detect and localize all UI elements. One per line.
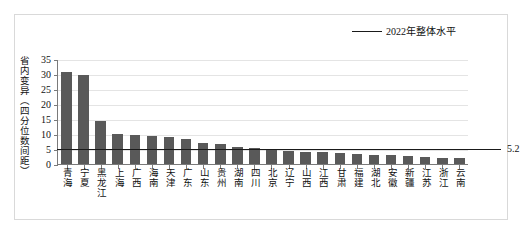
x-label-slot: 湖南 [229, 168, 246, 216]
x-label-slot: 黑龙江 [92, 168, 109, 216]
x-tick-label: 海南 [146, 168, 158, 188]
bar [198, 143, 209, 165]
x-tick-label: 四川 [249, 168, 261, 188]
bar [266, 149, 277, 165]
x-label-slot: 浙江 [434, 168, 451, 216]
x-tick-label: 广东 [180, 168, 192, 188]
x-tick-label: 湖北 [368, 168, 380, 188]
x-label-slot: 湖北 [365, 168, 382, 216]
y-tick-mark [54, 165, 58, 166]
x-tick-label: 浙江 [437, 168, 449, 188]
y-tick-label: 30 [41, 70, 51, 80]
x-tick-label: 江苏 [419, 168, 431, 188]
x-tick-label: 福建 [351, 168, 363, 188]
y-tick-label: 15 [41, 115, 51, 125]
x-tick-label: 江西 [317, 168, 329, 188]
x-label-slot: 广西 [126, 168, 143, 216]
x-label-slot: 安徽 [382, 168, 399, 216]
bar [95, 121, 106, 165]
x-tick-label: 云南 [454, 168, 466, 188]
x-tick-label: 安徽 [385, 168, 397, 188]
x-label-slot: 天津 [160, 168, 177, 216]
plot-area: 05101520253035 5.2 [58, 60, 468, 165]
bar [181, 139, 192, 165]
y-tick-label: 20 [41, 100, 51, 110]
x-tick-label: 山东 [197, 168, 209, 188]
x-label-slot: 四川 [246, 168, 263, 216]
x-tick-label: 贵州 [214, 168, 226, 188]
y-tick-label: 25 [41, 85, 51, 95]
x-label-slot: 辽宁 [280, 168, 297, 216]
bar [164, 137, 175, 165]
x-tick-label: 上海 [112, 168, 124, 188]
x-label-slot: 甘肃 [331, 168, 348, 216]
x-label-slot: 云南 [451, 168, 468, 216]
bar [249, 148, 260, 165]
x-tick-label: 青海 [61, 168, 73, 188]
x-label-slot: 海南 [143, 168, 160, 216]
x-label-slot: 北京 [263, 168, 280, 216]
x-tick-label: 新疆 [402, 168, 414, 188]
x-tick-label: 湖南 [232, 168, 244, 188]
x-tick-label: 宁夏 [78, 168, 90, 188]
bar [215, 144, 226, 165]
chart-figure: 2022年整体水平 省内变异（四分位数间距） 05101520253035 5.… [0, 0, 524, 235]
x-label-slot: 江苏 [417, 168, 434, 216]
x-tick-label: 甘肃 [334, 168, 346, 188]
plot-inner: 05101520253035 5.2 [58, 60, 468, 165]
x-axis-line [57, 164, 468, 165]
bar [61, 72, 72, 165]
x-tick-label: 北京 [266, 168, 278, 188]
chart-legend: 2022年整体水平 [352, 24, 456, 38]
x-axis-labels: 青海宁夏黑龙江上海广西海南天津广东山东贵州湖南四川北京辽宁山西江西甘肃福建湖北安… [58, 168, 468, 216]
bar [283, 151, 294, 165]
x-label-slot: 江西 [314, 168, 331, 216]
x-label-slot: 宁夏 [75, 168, 92, 216]
x-label-slot: 新疆 [400, 168, 417, 216]
x-label-slot: 青海 [58, 168, 75, 216]
x-label-slot: 山东 [195, 168, 212, 216]
x-label-slot: 贵州 [212, 168, 229, 216]
x-tick-label: 山西 [300, 168, 312, 188]
x-tick-label: 广西 [129, 168, 141, 188]
y-tick-label: 0 [46, 160, 51, 170]
y-tick-label: 5 [46, 145, 51, 155]
legend-line-swatch [352, 31, 382, 32]
y-axis-title: 省内变异（四分位数间距） [16, 46, 31, 186]
reference-line [57, 149, 501, 150]
y-tick-label: 35 [41, 55, 51, 65]
legend-label: 2022年整体水平 [386, 26, 456, 37]
x-label-slot: 广东 [178, 168, 195, 216]
y-tick-label: 10 [41, 130, 51, 140]
x-tick-label: 天津 [163, 168, 175, 188]
x-tick-label: 辽宁 [283, 168, 295, 188]
x-label-slot: 上海 [109, 168, 126, 216]
x-tick-label: 黑龙江 [95, 168, 107, 198]
bar [78, 75, 89, 165]
bar [147, 136, 158, 165]
x-label-slot: 福建 [348, 168, 365, 216]
x-label-slot: 山西 [297, 168, 314, 216]
reference-line-value-label: 5.2 [507, 144, 520, 154]
